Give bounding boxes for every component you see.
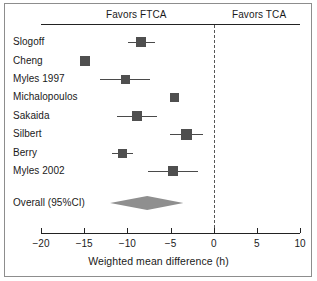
x-axis-title: Weighted mean difference (h) (0, 255, 317, 267)
study-row-label: Myles 2002 (13, 165, 65, 176)
summary-diamond (110, 196, 183, 210)
effect-size-marker (121, 75, 130, 84)
x-axis-tick (171, 228, 172, 233)
header-rule (41, 24, 300, 25)
null-effect-line (214, 25, 215, 233)
x-axis-tick (41, 228, 42, 233)
summary-row-label: Overall (95%CI) (13, 197, 85, 208)
x-axis-tick-label: 0 (211, 238, 217, 249)
study-row-label: Cheng (13, 55, 43, 66)
effect-size-marker (181, 129, 192, 140)
study-row-label: Silbert (13, 128, 42, 139)
x-axis-tick (257, 228, 258, 233)
x-axis-tick-label: 10 (294, 238, 305, 249)
study-row-label: Berry (13, 147, 37, 158)
effect-size-marker (118, 149, 127, 158)
plot-area: Favors FTCA Favors TCA SlogoffChengMyles… (0, 0, 317, 281)
x-axis-tick-label: −10 (119, 238, 136, 249)
study-row-label: Sakaida (13, 110, 50, 121)
effect-size-marker (80, 56, 90, 66)
x-axis-tick-label: 5 (254, 238, 260, 249)
forest-plot-figure: Favors FTCA Favors TCA SlogoffChengMyles… (0, 0, 317, 281)
x-axis-tick-label: −5 (165, 238, 176, 249)
favors-right-label: Favors TCA (232, 9, 286, 20)
x-axis-tick (300, 228, 301, 233)
effect-size-marker (136, 37, 146, 47)
x-axis-tick (127, 228, 128, 233)
x-axis-tick (84, 228, 85, 233)
effect-size-marker (168, 166, 178, 176)
study-row-label: Slogoff (13, 36, 44, 47)
effect-size-marker (132, 111, 142, 121)
study-row-label: Michalopoulos (13, 91, 78, 102)
favors-left-label: Favors FTCA (106, 9, 167, 20)
x-axis-tick (214, 228, 215, 233)
x-axis-tick-label: −15 (76, 238, 93, 249)
study-row-label: Myles 1997 (13, 73, 65, 84)
x-axis-line (41, 233, 300, 234)
x-axis-tick-label: −20 (33, 238, 50, 249)
effect-size-marker (170, 93, 179, 102)
